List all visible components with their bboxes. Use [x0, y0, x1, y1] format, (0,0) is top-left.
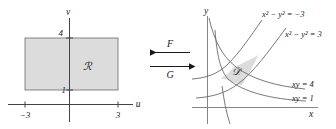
figure-svg: v u 4 1 −3 3 ℛ F G y x	[0, 0, 336, 129]
figure-container: v u 4 1 −3 3 ℛ F G y x	[0, 0, 336, 129]
label-xy-equals-4: xy = 4	[291, 79, 315, 89]
transformation-arrows: F G	[150, 38, 190, 80]
label-x2-minus-y2-equals-3: x² − y² = 3	[284, 29, 322, 39]
left-panel-uv-plane: v u 4 1 −3 3 ℛ	[8, 7, 141, 122]
curve-xy-equals-1	[215, 30, 306, 101]
right-panel-xy-plane: y x 𝒟 x² − y² = −3 x² − y² = 3 xy = 4 xy…	[192, 6, 322, 124]
y-axis-label: y	[203, 6, 209, 16]
x-axis-label: x	[308, 109, 314, 119]
u-axis-label: u	[136, 99, 141, 109]
region-R-rectangle	[25, 38, 118, 90]
region-R-label: ℛ	[83, 60, 93, 72]
label-xy-equals-1: xy = 1	[291, 93, 314, 103]
v-axis-label: v	[66, 7, 71, 17]
tick-label-v-4: 4	[59, 28, 64, 38]
curve-branch-lower	[222, 86, 230, 124]
arrow-G-label: G	[166, 69, 173, 80]
arrow-F-label: F	[166, 38, 174, 49]
tick-label-v-1: 1	[62, 85, 67, 95]
tick-label-u-neg3: −3	[20, 110, 31, 120]
label-x2-minus-y2-equals-neg3: x² − y² = −3	[261, 9, 305, 19]
curve-x2-minus-y2-equals-neg3	[192, 20, 262, 79]
tick-label-u-3: 3	[115, 110, 121, 120]
